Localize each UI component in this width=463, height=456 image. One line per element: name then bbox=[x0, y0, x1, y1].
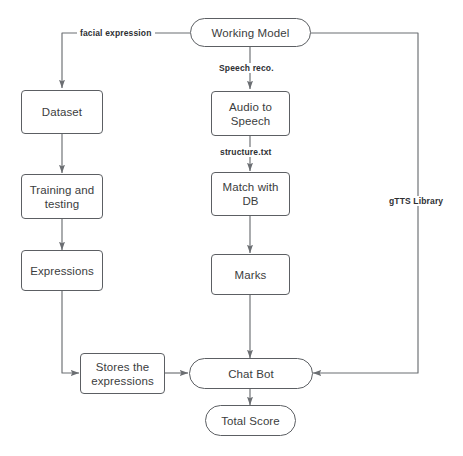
node-training-and-testing-label: Training and testing bbox=[30, 183, 95, 211]
node-total-score-label: Total Score bbox=[221, 414, 280, 428]
node-total-score[interactable]: Total Score bbox=[205, 405, 296, 436]
node-audio-to-speech[interactable]: Audio to Speech bbox=[211, 91, 290, 136]
edge-label-gtts-library: gTTS Library bbox=[386, 196, 446, 206]
node-dataset[interactable]: Dataset bbox=[21, 90, 103, 134]
node-audio-to-speech-label: Audio to Speech bbox=[229, 100, 272, 128]
edge-working-model-to-dataset bbox=[62, 33, 190, 88]
edge-label-structure-txt: structure.txt bbox=[217, 147, 275, 157]
node-stores-the-expressions[interactable]: Stores the expressions bbox=[80, 353, 165, 394]
node-dataset-label: Dataset bbox=[42, 105, 82, 119]
node-expressions-label: Expressions bbox=[30, 264, 94, 278]
node-match-with-db-label: Match with DB bbox=[223, 180, 279, 208]
flowchart-canvas: Working Model Dataset Training and testi… bbox=[0, 0, 463, 456]
node-marks-label: Marks bbox=[235, 268, 267, 282]
node-working-model-label: Working Model bbox=[212, 26, 290, 40]
node-match-with-db[interactable]: Match with DB bbox=[211, 172, 290, 216]
edge-label-facial-expression: facial expression bbox=[77, 28, 155, 38]
node-expressions[interactable]: Expressions bbox=[21, 250, 103, 291]
edge-expressions-to-stores bbox=[62, 291, 79, 373]
node-chat-bot-label: Chat Bot bbox=[228, 367, 274, 381]
node-working-model[interactable]: Working Model bbox=[190, 18, 311, 47]
edge-label-speech-reco: Speech reco. bbox=[216, 63, 277, 73]
node-chat-bot[interactable]: Chat Bot bbox=[189, 358, 313, 389]
node-marks[interactable]: Marks bbox=[211, 254, 290, 295]
node-stores-the-expressions-label: Stores the expressions bbox=[91, 360, 153, 388]
node-training-and-testing[interactable]: Training and testing bbox=[21, 174, 103, 219]
